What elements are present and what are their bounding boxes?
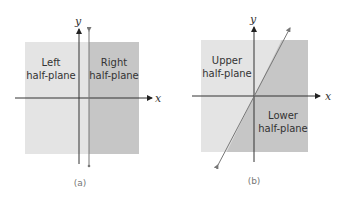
upper-region-label-line2: half-plane (202, 68, 252, 79)
right-region-label-line2: half-plane (89, 70, 139, 81)
panel-b: x y Upper half-plane Lower half-plane (b… (192, 13, 332, 186)
caption-a: (a) (74, 178, 87, 188)
y-axis-label: y (74, 15, 82, 28)
upper-region-label-line1: Upper (212, 55, 243, 66)
y-axis-label: y (249, 13, 257, 26)
panel-a: x y Left half-plane Right half-plane (a) (15, 15, 162, 188)
caption-b: (b) (248, 176, 261, 186)
left-region-label-line2: half-plane (26, 70, 76, 81)
x-axis-label: x (325, 90, 332, 103)
right-region-label-line1: Right (101, 57, 127, 68)
lower-region-label-line1: Lower (268, 110, 299, 121)
lower-region-label-line2: half-plane (258, 123, 308, 134)
half-planes-figure: x y Left half-plane Right half-plane (a)… (0, 0, 343, 201)
left-region-label-line1: Left (42, 57, 61, 68)
x-axis-label: x (155, 92, 162, 105)
